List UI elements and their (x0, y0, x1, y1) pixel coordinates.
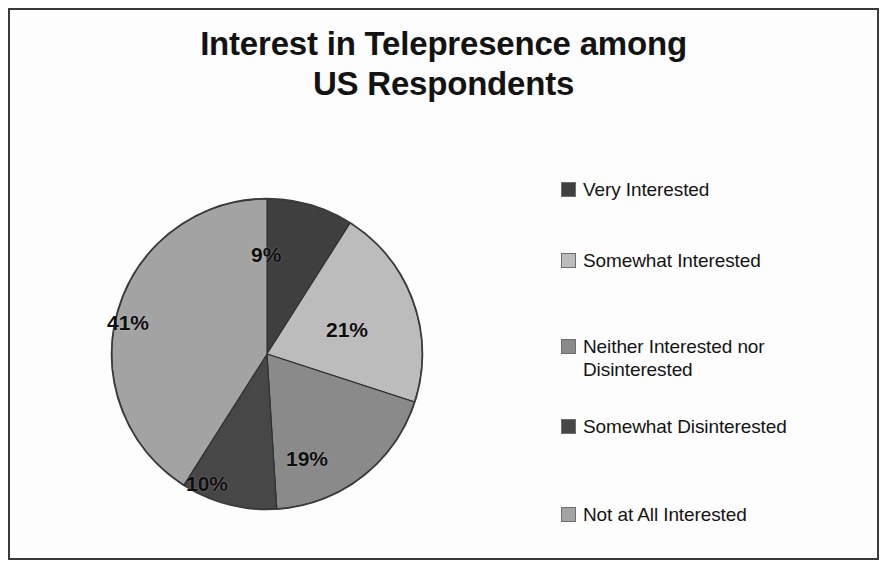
legend-label: Somewhat Disinterested (583, 415, 787, 438)
legend-swatch-icon (561, 339, 576, 354)
legend-item-somewhat-disinterested[interactable]: Somewhat Disinterested (561, 415, 873, 438)
pie-slice-label-somewhat-disinterested: 10% (186, 472, 228, 496)
pie-slice-label-neither: 19% (286, 447, 328, 471)
chart-title: Interest in Telepresence among US Respon… (10, 24, 877, 105)
legend-item-somewhat-interested[interactable]: Somewhat Interested (561, 249, 873, 272)
pie-slice-label-somewhat-interested: 21% (326, 318, 368, 342)
legend-swatch-icon (561, 507, 576, 522)
legend-item-neither-interested-nor-disinterested[interactable]: Neither Interested nor Disinterested (561, 335, 873, 381)
legend-item-very-interested[interactable]: Very Interested (561, 178, 873, 201)
chart-legend: Very Interested Somewhat Interested Neit… (561, 178, 873, 550)
chart-title-line-1: Interest in Telepresence among (50, 24, 837, 64)
legend-swatch-icon (561, 182, 576, 197)
legend-swatch-icon (561, 253, 576, 268)
pie-slice-label-very-interested: 9% (251, 243, 281, 267)
legend-label: Very Interested (583, 178, 709, 201)
chart-frame: Interest in Telepresence among US Respon… (8, 8, 879, 560)
pie-chart: 9% 21% 19% 10% 41% (108, 195, 426, 513)
legend-swatch-icon (561, 419, 576, 434)
legend-label: Somewhat Interested (583, 249, 761, 272)
pie-slice-label-not-at-all-interested: 41% (107, 311, 149, 335)
pie-plot-area: 9% 21% 19% 10% 41% (30, 150, 550, 550)
legend-item-not-at-all-interested[interactable]: Not at All Interested (561, 503, 873, 526)
legend-label: Not at All Interested (583, 503, 747, 526)
chart-title-line-2: US Respondents (50, 64, 837, 104)
legend-label: Neither Interested nor Disinterested (583, 335, 765, 381)
